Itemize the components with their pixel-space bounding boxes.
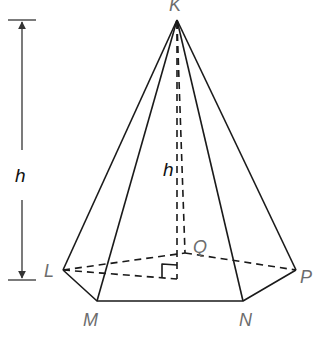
label-vertex-N: N (239, 310, 253, 330)
height-dimension (8, 20, 36, 280)
pyramid-diagram: K L M N P Q h h (0, 0, 318, 342)
label-height-side: h (15, 165, 26, 186)
right-angle-marker (162, 264, 177, 278)
label-vertex-M: M (83, 310, 98, 330)
edge-LQ (63, 253, 185, 270)
edge-KP (177, 20, 296, 270)
label-apex-K: K (169, 0, 182, 15)
base-radius-segment (63, 270, 177, 279)
hidden-edges (63, 22, 296, 279)
edge-KQ (177, 22, 185, 253)
label-height-inner: h (163, 159, 174, 180)
edge-KL (63, 20, 177, 270)
edge-KN (177, 20, 243, 301)
visible-edges (63, 20, 296, 301)
label-vertex-P: P (300, 267, 312, 287)
label-vertex-Q: Q (193, 237, 207, 257)
label-vertex-L: L (44, 261, 54, 281)
